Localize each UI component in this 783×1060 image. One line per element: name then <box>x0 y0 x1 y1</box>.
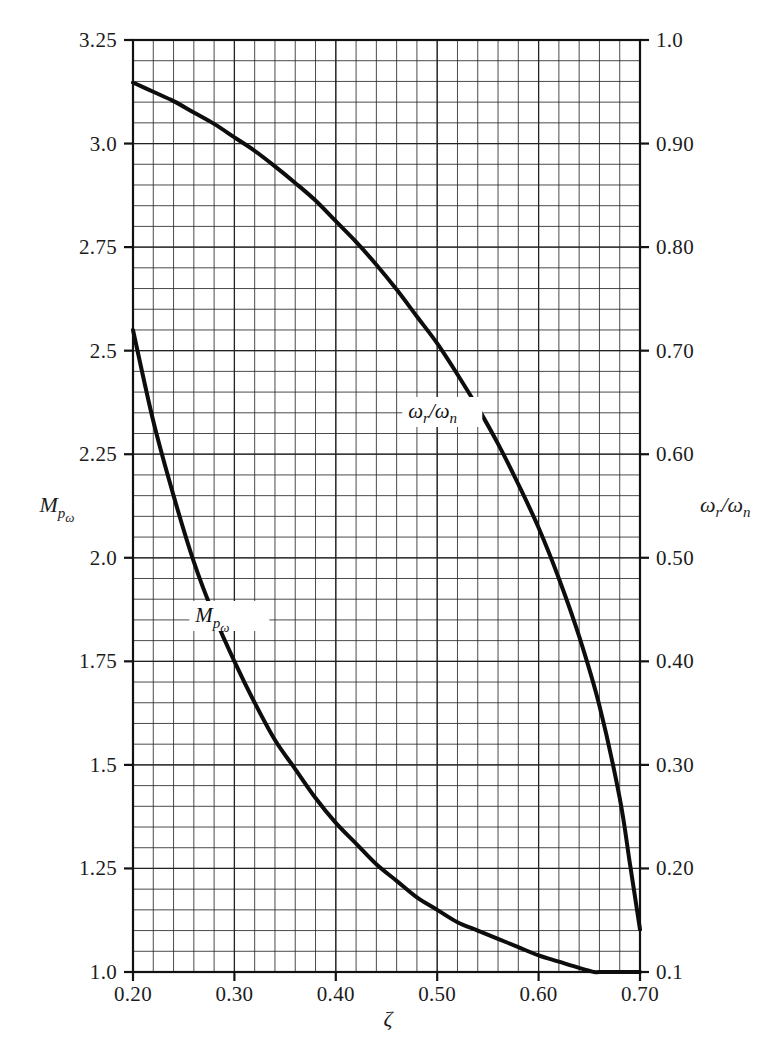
right-axis-tick-label: 0.80 <box>656 235 694 259</box>
right-axis-tick-label: 0.20 <box>656 856 694 880</box>
bottom-axis-tick-label: 0.70 <box>621 982 659 1006</box>
left-axis-tick-label: 2.25 <box>79 442 117 466</box>
bottom-axis-tick-label: 0.40 <box>317 982 355 1006</box>
chart-figure: 1.01.251.51.752.02.252.52.753.03.25 0.10… <box>0 0 783 1060</box>
left-axis-tick-label: 1.75 <box>79 649 117 673</box>
chart-background <box>0 0 783 1060</box>
left-axis-tick-label: 3.0 <box>90 132 117 156</box>
right-axis-tick-label: 0.50 <box>656 546 694 570</box>
right-axis-tick-label: 0.40 <box>656 649 694 673</box>
right-axis-tick-label: 0.60 <box>656 442 694 466</box>
bottom-axis-tick-label: 0.60 <box>520 982 558 1006</box>
right-axis-tick-label: 0.1 <box>656 960 683 984</box>
left-axis-tick-label: 3.25 <box>79 28 117 52</box>
right-axis-tick-label: 0.90 <box>656 132 694 156</box>
left-axis-tick-label: 2.75 <box>79 235 117 259</box>
left-axis-tick-label: 2.0 <box>90 546 117 570</box>
right-axis-tick-label: 0.30 <box>656 753 694 777</box>
chart-canvas: 1.01.251.51.752.02.252.52.753.03.25 0.10… <box>0 0 783 1060</box>
bottom-axis-tick-label: 0.50 <box>418 982 456 1006</box>
left-axis-tick-label: 1.5 <box>90 753 117 777</box>
right-axis-title: ωr/ωn <box>700 492 751 520</box>
left-axis-tick-label: 1.0 <box>90 960 117 984</box>
bottom-axis-tick-label: 0.30 <box>215 982 253 1006</box>
right-axis-tick-label: 1.0 <box>656 28 683 52</box>
left-axis-tick-label: 1.25 <box>79 856 117 880</box>
right-axis-tick-label: 0.70 <box>656 339 694 363</box>
left-axis-tick-label: 2.5 <box>90 339 117 363</box>
bottom-axis-tick-label: 0.20 <box>114 982 152 1006</box>
